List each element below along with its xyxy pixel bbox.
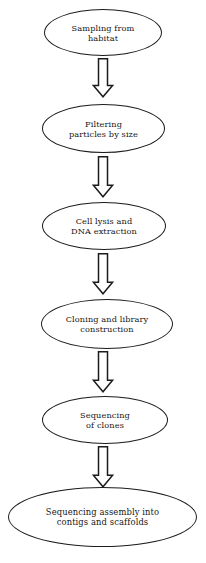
flowchart-node-filtering: Filtering particles by size [42,104,165,153]
arrow-down-icon [92,351,114,393]
flowchart-arrow-5 [92,446,114,488]
flowchart-node-label: Sequencing of clones [74,410,136,430]
flowchart-node-label: Cloning and library construction [60,314,155,334]
flowchart-node-cloning: Cloning and library construction [41,299,173,349]
flowchart-node-sampling: Sampling from habitat [44,9,162,56]
flowchart-node-label: Sequencing assembly into contigs and sca… [40,507,165,528]
flowchart-node-cell-lysis: Cell lysis and DNA extraction [42,202,166,250]
arrow-down-icon [92,253,114,295]
flowchart-node-sequencing: Sequencing of clones [42,396,168,444]
arrow-down-icon [92,446,114,488]
flowchart-node-label: Filtering particles by size [63,119,144,139]
flowchart-diagram: Sampling from habitat Filtering particle… [0,0,206,563]
arrow-down-icon [92,156,114,198]
flowchart-node-label: Cell lysis and DNA extraction [65,216,143,236]
flowchart-node-assembly: Sequencing assembly into contigs and sca… [8,487,197,547]
flowchart-node-label: Sampling from habitat [66,23,141,43]
flowchart-arrow-2 [92,156,114,198]
flowchart-arrow-3 [92,253,114,295]
flowchart-arrow-4 [92,351,114,393]
arrow-down-icon [92,58,114,98]
flowchart-arrow-1 [92,58,114,98]
